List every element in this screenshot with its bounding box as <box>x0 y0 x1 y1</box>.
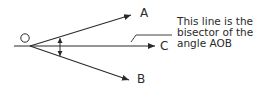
label-b: B <box>137 73 145 85</box>
ray-ob <box>30 46 129 80</box>
label-c: C <box>160 40 168 52</box>
label-a: A <box>140 7 148 19</box>
vertex-o-marker-icon <box>21 34 29 42</box>
ray-oa <box>30 15 131 46</box>
callout-line-3: angle AOB <box>177 38 253 49</box>
bisector-callout: This line is the bisector of the angle A… <box>177 16 253 49</box>
